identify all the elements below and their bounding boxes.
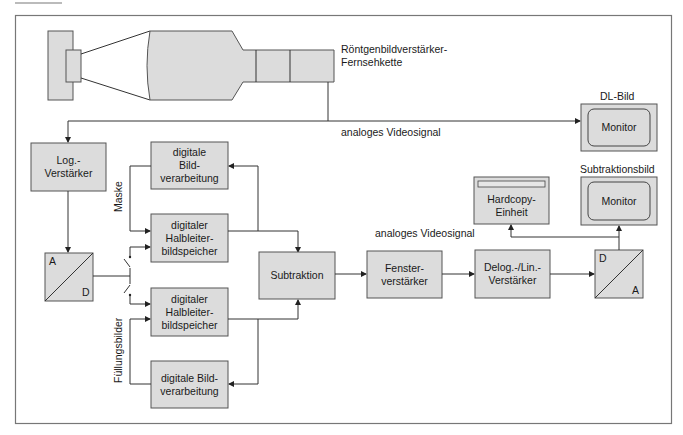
delog-amp-line2: Verstärker [484, 274, 541, 287]
dip-top-line2: Bild- [160, 159, 218, 172]
mask-label: Maske [112, 181, 124, 212]
chain-label: Röntgenbildverstärker- Fernsehkette [341, 43, 447, 69]
hardcopy-line1: Hardcopy- [487, 193, 535, 206]
image-intensifier-tv-chain [48, 31, 334, 100]
dip-bottom-line2: verarbeitung [160, 385, 218, 398]
semiconductor-memory-bottom: digitalerHalbleiter-bildspeicher [151, 288, 228, 336]
signal-label-right: analoges Videosignal [375, 227, 475, 240]
dip-top-line1: digitale [160, 146, 218, 159]
dac-label-a: A [632, 284, 639, 297]
signal-label-top: analoges Videosignal [341, 126, 441, 139]
subtraktionsbild-caption: Subtraktionsbild [580, 163, 655, 176]
mem-bottom-line2: Halbleiter- [161, 306, 217, 319]
mem-top-line3: bildspeicher [161, 245, 217, 258]
hardcopy-unit: Hardcopy-Einheit [474, 188, 549, 224]
delog-amplifier: Delog.-/Lin.-Verstärker [475, 250, 550, 298]
dip-top-line3: verarbeitung [160, 172, 218, 185]
dl-bild-caption: DL-Bild [600, 90, 634, 103]
subtraction-label: Subtraktion [270, 269, 323, 282]
monitor-bottom-label: Monitor [581, 177, 657, 225]
log-amp-line2: Verstärker [45, 167, 93, 180]
log-amplifier: Log.-Verstärker [31, 143, 106, 191]
digital-image-processing-bottom: digitale Bild-verarbeitung [151, 361, 228, 408]
mem-bottom-line1: digitaler [161, 293, 217, 306]
window-amplifier: Fenster-verstärker [367, 251, 442, 298]
adc-label-a: A [49, 255, 56, 268]
log-amp-line1: Log.- [45, 154, 93, 167]
chain-label-line2: Fernsehkette [341, 56, 447, 69]
fill-images-label: Füllungsbilder [112, 318, 124, 383]
dip-bottom-line1: digitale Bild- [160, 372, 218, 385]
digital-image-processing-top: digitaleBild-verarbeitung [151, 142, 228, 189]
subtraction: Subtraktion [259, 252, 335, 299]
mem-bottom-line3: bildspeicher [161, 319, 217, 332]
adc-label-d: D [82, 286, 90, 299]
monitor-top-label: Monitor [581, 104, 657, 151]
window-amp-line1: Fenster- [381, 262, 428, 275]
hardcopy-line2: Einheit [487, 206, 535, 219]
mem-top-line2: Halbleiter- [161, 232, 217, 245]
dac-label-d: D [599, 252, 607, 265]
chain-label-line1: Röntgenbildverstärker- [341, 43, 447, 56]
mem-top-line1: digitaler [161, 219, 217, 232]
window-amp-line2: verstärker [381, 275, 428, 288]
delog-amp-line1: Delog.-/Lin.- [484, 261, 541, 274]
semiconductor-memory-top: digitalerHalbleiter-bildspeicher [151, 214, 228, 262]
